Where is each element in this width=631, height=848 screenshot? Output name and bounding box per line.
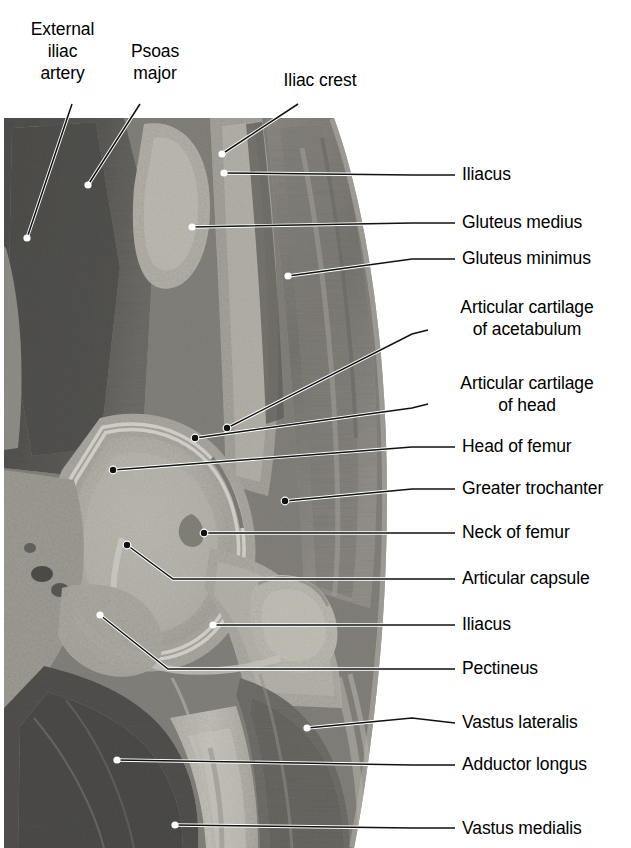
label-articular-cartilage-of-acetabulum: Articular cartilage of acetabulum (434, 296, 620, 340)
label-psoas-major: Psoas major (110, 40, 200, 84)
label-neck-of-femur: Neck of femur (462, 522, 570, 543)
label-gluteus-medius: Gluteus medius (462, 212, 582, 233)
label-greater-trochanter: Greater trochanter (462, 478, 603, 499)
label-external-iliac-artery: External iliac artery (10, 18, 115, 84)
label-iliacus-upper: Iliacus (462, 164, 511, 185)
label-articular-cartilage-of-head: Articular cartilage of head (434, 372, 620, 416)
anatomical-photograph (4, 118, 402, 848)
label-head-of-femur: Head of femur (462, 436, 572, 457)
label-vastus-medialis: Vastus medialis (462, 818, 582, 839)
cross-section-image (4, 118, 402, 848)
anatomy-figure: External iliac artery Psoas major Iliac … (0, 0, 631, 848)
label-iliacus-lower: Iliacus (462, 614, 511, 635)
label-adductor-longus: Adductor longus (462, 754, 587, 775)
label-vastus-lateralis: Vastus lateralis (462, 712, 578, 733)
label-gluteus-minimus: Gluteus minimus (462, 248, 591, 269)
label-articular-capsule: Articular capsule (462, 568, 590, 589)
label-pectineus: Pectineus (462, 658, 538, 679)
label-iliac-crest: Iliac crest (272, 70, 368, 91)
